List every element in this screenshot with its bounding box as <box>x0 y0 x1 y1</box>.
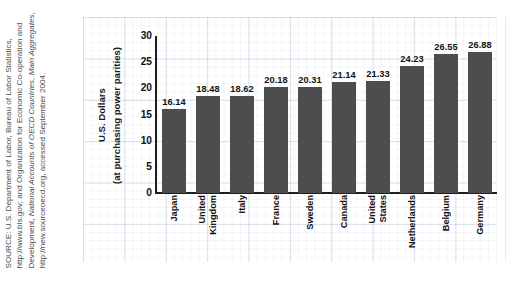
category-label: United <box>197 195 208 224</box>
category-label-slot: Canada <box>327 195 361 277</box>
category-label: States <box>378 195 389 223</box>
category-label: Italy <box>237 195 248 213</box>
bar-chart: U.S. Dollars (at purchasing power pariti… <box>83 17 497 262</box>
y-tick-5: 5 <box>132 162 152 172</box>
category-label-slot: UnitedStates <box>361 195 395 277</box>
category-label: Germany <box>475 195 486 235</box>
source-italic-title: National Accounts of OECD Countries, Mai… <box>26 12 35 216</box>
bar-group: 26.88 <box>463 36 497 193</box>
category-label: France <box>271 195 282 225</box>
bar-value-label: 16.14 <box>162 97 185 107</box>
y-tick-25: 25 <box>132 57 152 67</box>
category-label-slot: Belgium <box>429 195 463 277</box>
bar-group: 18.48 <box>191 36 225 193</box>
bar-group: 21.33 <box>361 36 395 193</box>
y-axis-tick-labels: 051015202530 <box>130 17 152 262</box>
bar[interactable] <box>264 87 288 193</box>
category-label: Netherlands <box>407 195 418 248</box>
bar-group: 26.55 <box>429 36 463 193</box>
x-axis-category-labels: JapanUnitedKingdomItalyFranceSwedenCanad… <box>157 195 497 277</box>
y-tick-0: 0 <box>132 188 152 198</box>
bar[interactable] <box>230 96 254 193</box>
bar-group: 16.14 <box>157 36 191 193</box>
bar-value-label: 24.23 <box>400 54 423 64</box>
bar-group: 24.23 <box>395 36 429 193</box>
source-note: SOURCE: U.S. Department of Labor, Bureau… <box>0 0 80 283</box>
category-label: Kingdom <box>208 195 219 235</box>
category-label: United <box>367 195 378 224</box>
y-tick-30: 30 <box>132 31 152 41</box>
bar-value-label: 21.33 <box>366 69 389 79</box>
bar[interactable] <box>434 54 458 193</box>
bar-group: 20.31 <box>293 36 327 193</box>
category-label-slot: France <box>259 195 293 277</box>
category-label-slot: Netherlands <box>395 195 429 277</box>
bar-value-label: 21.14 <box>332 70 355 80</box>
bar-value-label: 18.48 <box>196 84 219 94</box>
category-label: Sweden <box>305 195 316 230</box>
bar[interactable] <box>196 96 220 193</box>
category-label-slot: Japan <box>157 195 191 277</box>
y-axis-title: U.S. Dollars (at purchasing power pariti… <box>95 35 129 195</box>
bar-group: 21.14 <box>327 36 361 193</box>
source-suffix: http://new.sourceoecd.org, accessed Sept… <box>38 73 47 269</box>
category-label-slot: Italy <box>225 195 259 277</box>
category-label: Belgium <box>441 195 452 231</box>
right-edge-panel <box>505 17 528 262</box>
source-note-text: SOURCE: U.S. Department of Labor, Bureau… <box>3 6 49 269</box>
bar-group: 20.18 <box>259 36 293 193</box>
bar[interactable] <box>468 52 492 193</box>
category-label-slot: Sweden <box>293 195 327 277</box>
category-label-slot: UnitedKingdom <box>191 195 225 277</box>
bar-value-label: 18.62 <box>230 84 253 94</box>
y-tick-10: 10 <box>132 136 152 146</box>
y-tick-15: 15 <box>132 110 152 120</box>
bar[interactable] <box>366 81 390 193</box>
bar-value-label: 20.31 <box>298 75 321 85</box>
y-tick-20: 20 <box>132 83 152 93</box>
bar-value-label: 26.88 <box>468 40 491 50</box>
bar[interactable] <box>298 87 322 193</box>
bars-layer: 16.1418.4818.6220.1820.3121.1421.3324.23… <box>157 36 497 193</box>
bar[interactable] <box>332 82 356 193</box>
category-label: Canada <box>339 195 350 228</box>
bar-group: 18.62 <box>225 36 259 193</box>
bar-value-label: 26.55 <box>434 42 457 52</box>
bar-value-label: 20.18 <box>264 75 287 85</box>
bar[interactable] <box>400 66 424 193</box>
category-label: Japan <box>169 195 180 222</box>
y-axis-title-line-1: U.S. Dollars <box>95 35 109 195</box>
figure-container: SOURCE: U.S. Department of Labor, Bureau… <box>0 0 528 283</box>
category-label-slot: Germany <box>463 195 497 277</box>
bar[interactable] <box>162 109 186 193</box>
y-axis-title-line-2: (at purchasing power parities) <box>110 35 124 195</box>
